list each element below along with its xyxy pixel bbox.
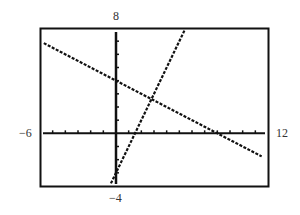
- graph-plot: [0, 0, 300, 215]
- series-line-increasing: [111, 31, 184, 184]
- series-line-decreasing: [44, 43, 262, 156]
- viewing-window-frame: [41, 29, 269, 187]
- axes: [43, 32, 265, 184]
- graph-lines: [44, 31, 262, 184]
